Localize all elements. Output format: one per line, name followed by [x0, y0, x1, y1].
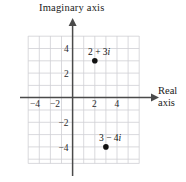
real-axis-line [20, 94, 159, 102]
point-label-2-plus-3i-text: 2 + 3 [88, 47, 108, 57]
real-axis-label: Real axis [158, 86, 177, 108]
y-tick-label-neg2: −2 [59, 118, 69, 128]
point-3-minus-4i [103, 144, 109, 150]
point-label-2-plus-3i: 2 + 3i [88, 47, 110, 57]
y-tick-label-neg4: −4 [59, 143, 69, 153]
real-axis-label-line2: axis [158, 98, 177, 109]
real-axis-label-line1: Real [158, 85, 177, 96]
point-2-plus-3i [92, 58, 98, 64]
grid-lines [28, 36, 139, 164]
x-tick-label-neg4: −4 [30, 99, 40, 109]
x-tick-label-2: 2 [92, 99, 97, 109]
y-tick-label-4: 4 [64, 44, 69, 54]
point-label-3-minus-4i: 3 − 4i [99, 133, 121, 143]
point-label-3-minus-4i-text: 3 − 4 [99, 133, 119, 143]
imaginary-axis-label: Imaginary axis [39, 3, 105, 14]
y-tick-label-2: 2 [64, 69, 69, 79]
complex-plane-figure: Imaginary axis Real axis −4 −2 2 4 4 2 −… [0, 0, 186, 182]
x-tick-label-neg2: −2 [50, 99, 60, 109]
imaginary-unit-icon: i [108, 47, 111, 57]
imaginary-unit-icon: i [119, 133, 122, 143]
x-tick-label-4: 4 [115, 99, 120, 109]
